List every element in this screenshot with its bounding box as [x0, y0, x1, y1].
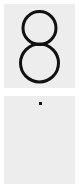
dot-mark: [39, 102, 42, 105]
digit-panel: [4, 4, 75, 88]
eight-upper-loop: [23, 12, 56, 45]
digit-eight-glyph: [4, 4, 75, 88]
eight-lower-loop: [21, 44, 59, 82]
dot-panel: [4, 96, 75, 184]
dot-glyph: [4, 96, 75, 184]
